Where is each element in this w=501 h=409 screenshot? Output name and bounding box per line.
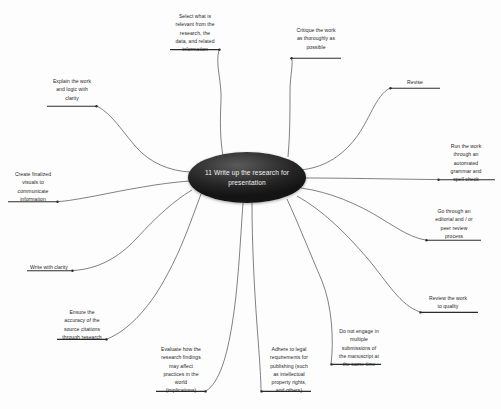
branch-line-create-finalized-visuals [58,181,190,202]
central-topic-label: 11 Write up the research for presentatio… [188,168,306,187]
branch-label-review-work-quality[interactable]: Review the work to quality [419,294,477,311]
branch-label-write-with-clarity[interactable]: Write with clarity [23,263,75,271]
branch-dot-explain-work-logic [95,105,97,107]
branch-line-write-with-clarity [73,190,192,271]
branch-line-critique-work [288,58,292,157]
branch-label-editorial-peer-review[interactable]: Go through an editorial and / or peer re… [425,207,483,240]
branch-label-ensure-citation-accuracy[interactable]: Ensure the accuracy of the source citati… [53,308,111,341]
branch-line-editorial-peer-review [301,188,426,240]
branch-dot-review-work-quality [419,311,421,313]
branch-label-adhere-legal-requirements[interactable]: Adhere to legal requirements for publish… [260,345,318,395]
branch-dot-critique-work [290,57,292,59]
branch-line-evaluate-implications [206,203,243,391]
branch-label-create-finalized-visuals[interactable]: Create finalized visuals to communicate … [4,170,62,203]
branch-line-select-relevant [218,50,223,156]
branch-connector-layer [0,0,501,409]
central-topic-node[interactable]: 11 Write up the research for presentatio… [188,152,306,203]
branch-dot-revise [389,87,391,89]
branch-label-critique-work[interactable]: Critique the work as thoroughly as possi… [287,26,345,51]
branch-label-evaluate-implications[interactable]: Evaluate how the research findings may a… [152,345,210,395]
branch-label-automated-grammar-spell-check[interactable]: Run the work through an automated gramma… [437,142,495,183]
branch-label-no-multiple-submissions[interactable]: Do not engage in multiple submissions of… [330,327,388,368]
branch-line-revise [300,88,390,170]
branch-line-ensure-citation-accuracy [107,194,201,339]
mind-map-canvas: 11 Write up the research for presentatio… [0,0,501,409]
branch-line-no-multiple-submissions [287,199,332,364]
branch-line-automated-grammar-spell-check [304,178,438,180]
branch-line-explain-work-logic [97,106,190,172]
branch-label-revise[interactable]: Revise [386,78,444,86]
branch-line-review-work-quality [297,196,420,312]
branch-label-explain-work-logic[interactable]: Explain the work and logic with clarity [43,77,101,102]
branch-label-select-relevant[interactable]: Select what is relevant from the researc… [166,12,224,53]
